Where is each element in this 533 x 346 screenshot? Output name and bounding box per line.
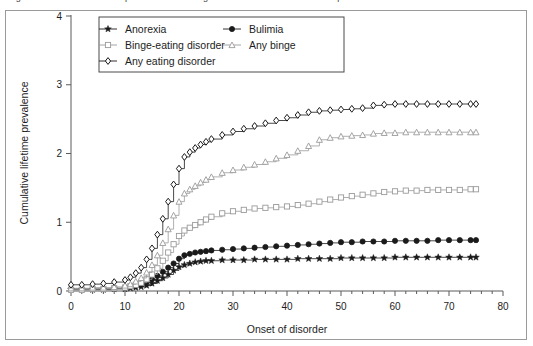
legend-label: Any eating disorder <box>125 55 216 67</box>
data-marker <box>305 255 312 261</box>
data-marker <box>198 220 203 225</box>
data-marker <box>338 240 343 245</box>
x-tick-label: 70 <box>443 301 455 312</box>
data-marker <box>241 246 246 251</box>
data-marker <box>182 154 187 161</box>
data-marker <box>274 244 279 249</box>
data-marker <box>230 246 235 251</box>
data-marker <box>166 265 171 270</box>
data-marker <box>284 243 289 248</box>
data-marker <box>219 257 226 263</box>
y-axis-title: Cumulative lifetime prevalence <box>18 81 30 224</box>
x-tick-label: 20 <box>173 301 185 312</box>
data-marker <box>263 244 268 249</box>
data-marker <box>349 240 354 245</box>
data-marker <box>360 105 365 112</box>
data-marker <box>425 187 430 192</box>
data-marker <box>338 195 343 200</box>
data-marker <box>349 194 354 199</box>
data-marker <box>193 222 198 227</box>
data-marker <box>166 250 171 255</box>
data-marker <box>155 231 160 238</box>
data-marker <box>171 242 176 247</box>
y-tick-label: 0 <box>56 286 62 297</box>
data-marker <box>456 254 463 260</box>
data-marker <box>112 279 117 286</box>
data-marker <box>349 105 354 112</box>
data-marker <box>328 107 333 114</box>
data-marker <box>446 254 453 260</box>
x-tick-label: 0 <box>68 301 74 312</box>
data-marker <box>160 215 165 222</box>
data-marker <box>251 256 258 262</box>
y-tick-label: 2 <box>56 148 62 159</box>
data-marker <box>274 205 279 210</box>
data-marker <box>317 107 322 114</box>
x-tick-label: 50 <box>335 301 347 312</box>
data-marker <box>338 106 343 113</box>
data-marker <box>467 254 474 260</box>
data-marker <box>176 233 181 238</box>
data-marker <box>473 238 478 243</box>
data-marker <box>229 26 234 31</box>
data-marker <box>105 42 110 47</box>
data-marker <box>371 191 376 196</box>
data-marker <box>317 199 322 204</box>
data-marker <box>101 280 106 287</box>
data-marker <box>160 258 165 263</box>
data-marker <box>402 254 409 260</box>
data-marker <box>446 187 451 192</box>
data-marker <box>149 245 154 252</box>
data-marker <box>468 238 473 243</box>
data-marker <box>435 254 442 260</box>
data-marker <box>425 101 430 108</box>
figure-caption: Figure 1 Cumulative lifetime prevalence … <box>8 0 350 2</box>
data-marker <box>220 132 225 139</box>
data-marker <box>209 248 214 253</box>
data-marker <box>457 101 462 108</box>
legend-label: Bulimia <box>249 23 284 35</box>
data-marker <box>424 254 431 260</box>
data-marker <box>203 257 210 263</box>
legend-label: Binge-eating disorder <box>125 39 225 51</box>
data-marker <box>252 245 257 250</box>
data-marker <box>171 181 176 188</box>
data-marker <box>473 101 478 108</box>
figure-frame: 01234 01020304050607080 Onset of disorde… <box>5 10 527 340</box>
data-marker <box>425 238 430 243</box>
data-marker <box>359 255 366 261</box>
data-marker <box>262 256 269 262</box>
data-marker <box>295 202 300 207</box>
data-marker <box>328 240 333 245</box>
data-marker <box>187 251 192 256</box>
x-tick-label: 30 <box>227 301 239 312</box>
data-marker <box>203 249 208 254</box>
data-marker <box>263 205 268 210</box>
data-marker <box>382 239 387 244</box>
data-marker <box>176 165 181 172</box>
data-marker <box>446 101 451 108</box>
data-marker <box>230 128 235 135</box>
data-marker <box>240 257 247 263</box>
data-marker <box>327 255 334 261</box>
chart-series-layer <box>68 101 480 293</box>
legend-label: Anorexia <box>125 23 167 35</box>
data-marker <box>446 238 451 243</box>
data-marker <box>392 189 397 194</box>
data-marker <box>160 269 165 274</box>
data-marker <box>392 254 399 260</box>
data-marker <box>473 187 478 192</box>
x-tick-label: 40 <box>281 301 293 312</box>
data-marker <box>209 214 214 219</box>
data-marker <box>220 247 225 252</box>
data-marker <box>414 238 419 243</box>
data-marker <box>176 256 181 261</box>
data-marker <box>403 101 408 108</box>
data-marker <box>382 101 387 108</box>
data-marker <box>468 101 473 108</box>
data-marker <box>197 258 204 264</box>
data-marker <box>284 256 291 262</box>
data-marker <box>230 257 237 263</box>
data-marker <box>139 264 144 271</box>
data-marker <box>192 259 199 265</box>
